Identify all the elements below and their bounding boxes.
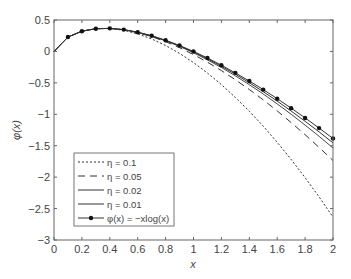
y-tick-label: 0.5: [35, 14, 50, 26]
data-marker: [80, 29, 84, 33]
y-tick-label: −2.5: [28, 203, 50, 215]
x-tick-label: 0.8: [158, 243, 173, 255]
x-tick-label: 0: [51, 243, 57, 255]
legend-label: η = 0.01: [107, 199, 142, 210]
legend-label: η = 0.05: [107, 171, 142, 182]
x-tick-label: 2: [330, 243, 336, 255]
data-marker: [66, 35, 70, 39]
data-marker: [275, 96, 279, 100]
data-marker: [303, 116, 307, 120]
y-tick-label: −1.5: [28, 140, 50, 152]
data-marker: [94, 27, 98, 31]
x-tick-label: 1.8: [297, 243, 312, 255]
data-marker: [317, 126, 321, 130]
y-tick-label: −3: [37, 234, 50, 246]
data-marker: [261, 87, 265, 91]
x-tick-label: 0.6: [130, 243, 145, 255]
data-marker: [205, 56, 209, 60]
x-tick-label: 1.4: [242, 243, 257, 255]
legend: η = 0.1η = 0.05η = 0.02η = 0.01φ(x) = −x…: [74, 153, 174, 226]
data-marker: [247, 79, 251, 83]
data-marker: [289, 106, 293, 110]
x-tick-label: 0.2: [74, 243, 89, 255]
series-line-3: [54, 28, 333, 142]
line-chart: 00.20.40.60.811.21.41.61.820.50−0.5−1−1.…: [0, 0, 351, 279]
data-marker: [233, 71, 237, 75]
data-marker: [177, 43, 181, 47]
data-marker: [163, 38, 167, 42]
data-marker: [108, 26, 112, 30]
x-tick-label: 1.6: [270, 243, 285, 255]
legend-label: η = 0.1: [107, 157, 136, 168]
x-tick-label: 1.2: [214, 243, 229, 255]
data-marker: [122, 27, 126, 31]
y-tick-label: −2: [37, 171, 50, 183]
x-tick-label: 0.4: [102, 243, 117, 255]
data-marker: [219, 63, 223, 67]
data-marker: [149, 34, 153, 38]
y-tick-label: −0.5: [28, 77, 50, 89]
series-line-2: [54, 28, 333, 148]
legend-label: η = 0.02: [107, 185, 142, 196]
data-marker: [191, 49, 195, 53]
x-axis-label: x: [189, 258, 196, 270]
y-tick-label: 0: [44, 45, 50, 57]
y-tick-label: −1: [37, 108, 50, 120]
y-axis-label: φ(x): [10, 120, 22, 140]
x-tick-label: 1: [190, 243, 196, 255]
series-line-1: [54, 28, 333, 160]
legend-label: φ(x) = −xlog(x): [107, 213, 169, 224]
legend-marker: [89, 216, 93, 220]
data-marker: [136, 30, 140, 34]
